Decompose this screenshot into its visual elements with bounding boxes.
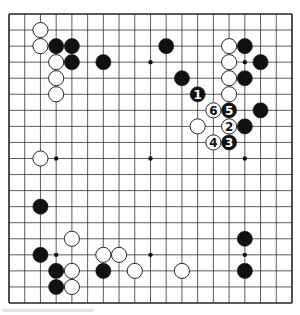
black-stone (33, 199, 48, 214)
black-stone-disc (253, 55, 268, 70)
move-number-label: 5 (225, 104, 233, 118)
numbered-white-stone-6: 6 (206, 103, 221, 118)
white-stone (127, 263, 142, 278)
white-stone (96, 247, 111, 262)
scan-artifact-line (2, 309, 94, 312)
white-stone (222, 71, 237, 86)
black-stone-disc (237, 39, 252, 54)
white-stone-disc (64, 263, 79, 278)
white-stone-disc (222, 71, 237, 86)
star-point (243, 253, 247, 257)
star-point (148, 253, 152, 257)
white-stone (111, 247, 126, 262)
white-stone (33, 22, 48, 37)
white-stone-disc (222, 55, 237, 70)
white-stone-disc (190, 119, 205, 134)
white-stone (49, 87, 64, 102)
white-stone (64, 279, 79, 294)
black-stone (237, 263, 252, 278)
black-stone-disc (96, 263, 111, 278)
white-stone-disc (64, 279, 79, 294)
white-stone-disc (33, 22, 48, 37)
white-stone-disc (49, 87, 64, 102)
black-stone (96, 55, 111, 70)
move-number-label: 4 (209, 136, 217, 150)
white-stone-disc (49, 55, 64, 70)
white-stone-disc (64, 231, 79, 246)
black-stone-disc (49, 263, 64, 278)
white-stone (64, 263, 79, 278)
black-stone-disc (33, 199, 48, 214)
white-stone-disc (222, 39, 237, 54)
go-board-diagram: 165243 (0, 0, 300, 315)
black-stone (159, 39, 174, 54)
move-number-label: 1 (193, 88, 201, 102)
white-stone-disc (222, 87, 237, 102)
black-stone-disc (237, 119, 252, 134)
black-stone (49, 39, 64, 54)
black-stone (64, 39, 79, 54)
white-stone (222, 87, 237, 102)
star-point (148, 60, 152, 64)
white-stone (64, 231, 79, 246)
white-stone-disc (111, 247, 126, 262)
black-stone (237, 231, 252, 246)
white-stone-disc (96, 247, 111, 262)
black-stone-disc (64, 55, 79, 70)
move-number-label: 2 (225, 120, 233, 134)
black-stone-disc (174, 71, 189, 86)
white-stone (33, 151, 48, 166)
black-stone-disc (159, 39, 174, 54)
black-stone (253, 103, 268, 118)
white-stone-disc (33, 151, 48, 166)
black-stone-disc (96, 55, 111, 70)
black-stone-disc (253, 103, 268, 118)
black-stone (174, 71, 189, 86)
black-stone (253, 55, 268, 70)
numbered-white-stone-4: 4 (206, 135, 221, 150)
numbered-black-stone-1: 1 (190, 87, 205, 102)
star-point (243, 60, 247, 64)
star-point (54, 253, 58, 257)
black-stone (64, 55, 79, 70)
star-point (243, 156, 247, 160)
star-point (54, 156, 58, 160)
black-stone-disc (49, 39, 64, 54)
white-stone-disc (49, 71, 64, 86)
white-stone (33, 39, 48, 54)
white-stone-disc (174, 263, 189, 278)
black-stone (237, 119, 252, 134)
move-number-label: 6 (209, 104, 217, 118)
white-stone-disc (127, 263, 142, 278)
black-stone-disc (237, 263, 252, 278)
white-stone (190, 119, 205, 134)
white-stone-disc (33, 39, 48, 54)
black-stone (33, 247, 48, 262)
black-stone-disc (49, 279, 64, 294)
black-stone (49, 279, 64, 294)
black-stone (237, 39, 252, 54)
go-board: 165243 (0, 0, 300, 315)
numbered-black-stone-3: 3 (222, 135, 237, 150)
move-number-label: 3 (225, 136, 233, 150)
black-stone (49, 263, 64, 278)
white-stone (49, 71, 64, 86)
white-stone (174, 263, 189, 278)
star-point (148, 156, 152, 160)
black-stone-disc (64, 39, 79, 54)
numbered-black-stone-5: 5 (222, 103, 237, 118)
black-stone (237, 71, 252, 86)
black-stone-disc (237, 231, 252, 246)
black-stone-disc (33, 247, 48, 262)
white-stone (222, 39, 237, 54)
numbered-white-stone-2: 2 (222, 119, 237, 134)
white-stone (222, 55, 237, 70)
white-stone (49, 55, 64, 70)
black-stone (96, 263, 111, 278)
black-stone-disc (237, 71, 252, 86)
